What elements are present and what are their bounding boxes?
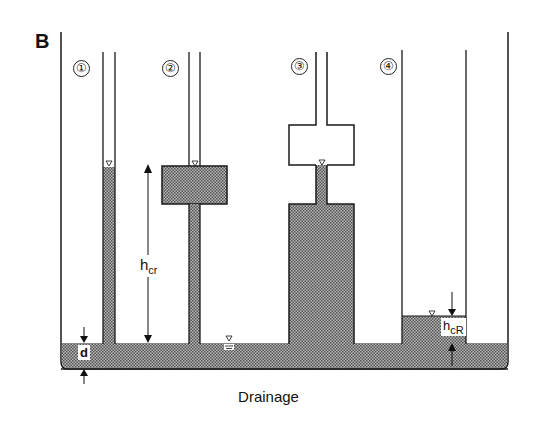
water-level-icon [319,160,325,165]
column-2-label: ② [162,60,179,77]
hcR-sub: cR [450,324,463,336]
critical-height-label: hcr [140,255,158,277]
caption: Drainage [0,388,537,405]
column-2-reservoir [162,52,227,344]
panel-label: B [35,30,49,53]
critical-height-arrow [144,164,152,343]
column-3-chambers [289,52,354,344]
column-1-tube [103,52,115,344]
column-1-label: ① [73,60,90,77]
column-4-label: ④ [380,58,397,75]
column-3-label: ③ [291,58,308,75]
depth-label: d [78,345,90,360]
reservoir-height-label: hcR [441,318,466,336]
water-level-icon [429,311,435,316]
water-level-icon [106,161,112,166]
hcr-sub: cr [148,264,157,276]
